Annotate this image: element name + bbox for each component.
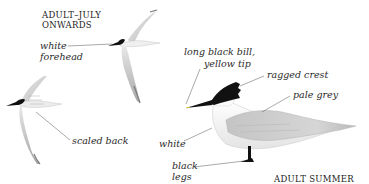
caption-adult-summer: ADULT SUMMER: [274, 174, 354, 184]
leader-line-crest: [240, 76, 264, 86]
caption-adult-july-line2: ONWARDS: [42, 20, 92, 30]
flying-tern-upper: [108, 10, 160, 103]
leader-line-scaled-back: [36, 112, 70, 140]
label-black-legs-line2: legs: [172, 172, 192, 182]
label-white-forehead-line2: forehead: [40, 52, 83, 62]
leader-line-legs: [194, 161, 244, 167]
label-white: white: [159, 139, 186, 149]
leader-line-forehead: [68, 44, 112, 46]
leader-line-pale-grey: [262, 96, 290, 112]
label-bill-line2: yellow tip: [204, 59, 251, 69]
label-black-legs-line1: black: [172, 161, 198, 171]
flying-tern-lower: [6, 76, 62, 164]
caption-adult-july-line1: ADULT–JULY: [42, 10, 101, 20]
leader-line-white: [184, 128, 212, 141]
leader-line-bill: [186, 69, 200, 104]
label-pale-grey: pale grey: [293, 90, 338, 100]
label-bill-line1: long black bill,: [184, 47, 255, 57]
label-ragged-crest: ragged crest: [267, 70, 328, 80]
label-scaled-back: scaled back: [72, 136, 128, 146]
label-white-forehead-line1: white: [40, 41, 67, 51]
bird-identification-plate: ADULT–JULY ONWARDS white forehead scaled…: [0, 0, 369, 184]
